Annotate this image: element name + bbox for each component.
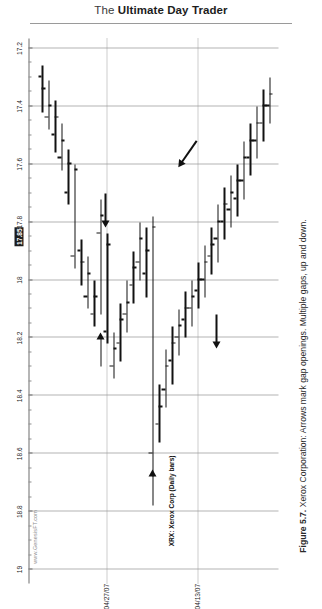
bar-close-tick bbox=[259, 122, 263, 124]
arrow-shaft bbox=[100, 338, 102, 366]
arrow-shaft bbox=[215, 314, 217, 342]
bar-high-low bbox=[204, 245, 206, 297]
tick-minor bbox=[28, 438, 31, 439]
tick-minor bbox=[28, 192, 31, 193]
figure-caption: Figure 5.7. Xerox Corporation: Arrows ma… bbox=[299, 0, 308, 553]
figure-caption-container: Figure 5.7. Xerox Corporation: Arrows ma… bbox=[286, 0, 322, 593]
bar-high-low bbox=[145, 227, 147, 296]
tick-major bbox=[28, 336, 32, 337]
bar-high-low bbox=[197, 262, 199, 308]
tick-major bbox=[28, 47, 32, 48]
bar-high-low bbox=[113, 332, 115, 378]
tick-minor bbox=[28, 539, 31, 540]
bar-open-tick bbox=[178, 324, 182, 326]
tick-minor bbox=[28, 264, 31, 265]
tick-minor bbox=[28, 554, 31, 555]
gridline-price bbox=[28, 568, 278, 569]
tick-minor bbox=[28, 61, 31, 62]
bar-close-tick bbox=[161, 388, 165, 390]
bar-close-tick bbox=[239, 179, 243, 181]
bar-high-low bbox=[256, 106, 258, 158]
arrow-shaft bbox=[105, 193, 107, 221]
date-tick-label: 04/13/07 bbox=[193, 583, 200, 609]
bar-close-tick bbox=[44, 116, 48, 118]
arrow-head-icon bbox=[212, 341, 220, 348]
bar-high-low bbox=[243, 141, 245, 199]
tick-minor bbox=[28, 322, 31, 323]
bar-close-tick bbox=[70, 255, 74, 257]
chart-rotated-canvas: 1918.818.618.418.21817.817.617.417.217.8… bbox=[28, 38, 278, 583]
bar-close-tick bbox=[122, 313, 126, 315]
tick-minor bbox=[28, 308, 31, 309]
bar-high-low bbox=[152, 216, 154, 477]
figure-number: Figure 5.7. bbox=[298, 510, 308, 553]
bar-high-low bbox=[178, 309, 180, 355]
gridline-price bbox=[28, 105, 278, 106]
bar-high-low bbox=[61, 123, 63, 169]
bar-high-low bbox=[210, 227, 212, 273]
bar-high-low bbox=[269, 77, 271, 123]
price-tick-label: 18.4 bbox=[15, 389, 22, 402]
tick-major bbox=[28, 452, 32, 453]
tick-minor bbox=[28, 250, 31, 251]
bar-open-tick bbox=[204, 261, 208, 263]
bar-open-tick bbox=[48, 104, 52, 106]
bar-open-tick bbox=[87, 272, 91, 274]
bar-close-tick bbox=[142, 272, 146, 274]
figure-caption-text: Xerox Corporation: Arrows mark gap openi… bbox=[298, 219, 308, 509]
price-tick-label: 19 bbox=[15, 565, 22, 572]
bar-close-tick bbox=[103, 330, 107, 332]
page-title-thin: The bbox=[94, 4, 117, 16]
tick-major bbox=[28, 394, 32, 395]
bar-high-low bbox=[184, 291, 186, 337]
tick-minor bbox=[28, 134, 31, 135]
chart-ticker-label: XRX: Xerox Corp (Daily bars) bbox=[167, 455, 174, 546]
bar-close-tick bbox=[246, 156, 250, 158]
bar-close-tick bbox=[213, 237, 217, 239]
bar-high-low bbox=[262, 89, 264, 141]
header-divider bbox=[30, 23, 292, 24]
tick-minor bbox=[28, 496, 31, 497]
bar-open-tick bbox=[126, 301, 130, 303]
price-tick-label: 17.4 bbox=[15, 99, 22, 112]
bar-close-tick bbox=[83, 295, 87, 297]
bar-open-tick bbox=[74, 168, 78, 170]
bar-close-tick bbox=[135, 261, 139, 263]
tick-minor bbox=[28, 177, 31, 178]
arrow-shaft bbox=[152, 475, 154, 505]
tick-major bbox=[28, 568, 32, 569]
page-title-bold: Ultimate Day Trader bbox=[118, 4, 228, 16]
bar-high-low bbox=[106, 233, 108, 343]
bar-close-tick bbox=[207, 255, 211, 257]
bar-high-low bbox=[132, 251, 134, 303]
bar-close-tick bbox=[129, 284, 133, 286]
bar-open-tick bbox=[132, 266, 136, 268]
price-tick-label: 17.2 bbox=[15, 42, 22, 55]
tick-major bbox=[28, 221, 32, 222]
page-title: The Ultimate Day Trader bbox=[0, 4, 322, 16]
tick-major bbox=[28, 163, 32, 164]
bar-open-tick bbox=[67, 162, 71, 164]
bar-close-tick bbox=[233, 197, 237, 199]
bar-high-low bbox=[230, 175, 232, 227]
tick-minor bbox=[28, 90, 31, 91]
bar-open-tick bbox=[165, 365, 169, 367]
bar-close-tick bbox=[174, 336, 178, 338]
bar-close-tick bbox=[51, 133, 55, 135]
bar-close-tick bbox=[168, 359, 172, 361]
bar-open-tick bbox=[158, 405, 162, 407]
bar-open-tick bbox=[113, 347, 117, 349]
bar-high-low bbox=[74, 164, 76, 268]
bar-open-tick bbox=[223, 203, 227, 205]
date-tick-label: 04/27/07 bbox=[102, 583, 109, 609]
tick-minor bbox=[28, 148, 31, 149]
bar-close-tick bbox=[77, 249, 81, 251]
gridline-date bbox=[197, 38, 198, 583]
bar-open-tick bbox=[106, 243, 110, 245]
gridline-price bbox=[28, 47, 278, 48]
arrow-head-icon bbox=[102, 220, 110, 227]
bar-high-low bbox=[87, 256, 89, 308]
bar-close-tick bbox=[64, 191, 68, 193]
ohlc-plot-area: 1918.818.618.418.21817.817.617.417.217.8… bbox=[28, 38, 278, 583]
bar-open-tick bbox=[171, 342, 175, 344]
